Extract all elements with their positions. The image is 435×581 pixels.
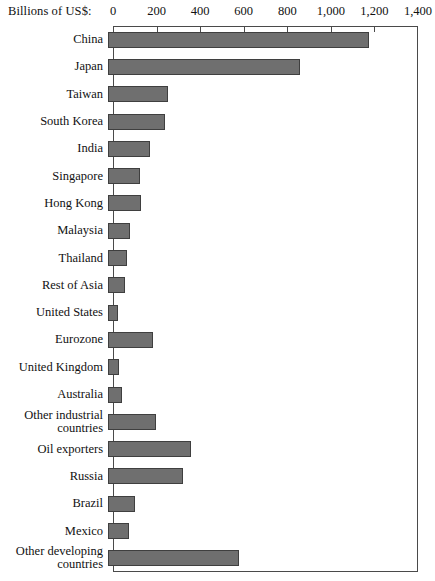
bar-track [108,272,413,298]
bar-row: Brazil [0,491,435,517]
bar-track [108,54,413,80]
bar-row: Japan [0,54,435,80]
x-axis-tick-label: 600 [234,4,253,19]
x-axis-tick-label: 400 [191,4,210,19]
bar [108,86,168,102]
bar [108,468,183,484]
bar-track [108,300,413,326]
bar-track [108,382,413,408]
category-label: United Kingdom [0,361,108,374]
x-axis-unit-label: Billions of US$: [8,4,92,19]
bar-track [108,27,413,53]
bar-track [108,436,413,462]
bar [108,441,191,457]
category-label: United States [0,306,108,319]
category-label: Thailand [0,252,108,265]
bar-track [108,190,413,216]
bar-track [108,245,413,271]
bar [108,550,239,566]
bar-row: Australia [0,382,435,408]
category-label: Singapore [0,170,108,183]
bar-track [108,545,413,571]
category-label: Malaysia [0,224,108,237]
bar [108,523,129,539]
category-label: South Korea [0,115,108,128]
bar [108,250,127,266]
category-label: Russia [0,470,108,483]
bar [108,332,153,348]
bar-track [108,109,413,135]
bar-track [108,463,413,489]
bar-row: Eurozone [0,327,435,353]
bar [108,496,135,512]
bar-row: Taiwan [0,81,435,107]
bar-row: India [0,136,435,162]
bar [108,223,130,239]
bar-chart: Billions of US$: 02004006008001,0001,200… [0,0,435,581]
bar-row: Thailand [0,245,435,271]
bar [108,168,140,184]
bar [108,387,122,403]
bar-track [108,409,413,435]
category-label: Other industrial countries [0,409,108,435]
bar-row: Hong Kong [0,190,435,216]
bar-row: United Kingdom [0,354,435,380]
category-label: China [0,33,108,46]
bar-row: Other industrial countries [0,409,435,435]
category-label: Eurozone [0,333,108,346]
category-label: Hong Kong [0,197,108,210]
category-label: India [0,142,108,155]
bar-track [108,491,413,517]
bar-row: United States [0,300,435,326]
bar-track [108,136,413,162]
x-axis-tick-label: 1,400 [404,4,432,19]
bar-row: South Korea [0,109,435,135]
bar-row: Russia [0,463,435,489]
category-label: Japan [0,60,108,73]
bar [108,32,369,48]
bar [108,59,300,75]
bar [108,195,141,211]
bar-row: Oil exporters [0,436,435,462]
bar [108,359,119,375]
bar-row: China [0,27,435,53]
bar-track [108,218,413,244]
bar-track [108,518,413,544]
category-label: Taiwan [0,88,108,101]
x-axis-tick-label: 0 [110,4,116,19]
x-axis-header: Billions of US$: 02004006008001,0001,200… [0,0,435,26]
x-axis-tick-label: 1,000 [317,4,345,19]
bar-rows: ChinaJapanTaiwanSouth KoreaIndiaSingapor… [0,26,435,572]
category-label: Oil exporters [0,443,108,456]
bar-row: Other developing countries [0,545,435,571]
category-label: Mexico [0,525,108,538]
bar-row: Malaysia [0,218,435,244]
bar-track [108,163,413,189]
bar [108,305,118,321]
bar [108,414,156,430]
category-label: Rest of Asia [0,279,108,292]
bar-row: Rest of Asia [0,272,435,298]
bar-row: Singapore [0,163,435,189]
bar-track [108,354,413,380]
category-label: Brazil [0,497,108,510]
bar [108,141,150,157]
bar-track [108,81,413,107]
bar [108,114,165,130]
x-axis-tick-label: 1,200 [360,4,388,19]
category-label: Australia [0,388,108,401]
category-label: Other developing countries [0,545,108,571]
x-axis-tick-label: 800 [278,4,297,19]
x-axis-tick-label: 200 [147,4,166,19]
bar [108,277,125,293]
bar-track [108,327,413,353]
bar-row: Mexico [0,518,435,544]
